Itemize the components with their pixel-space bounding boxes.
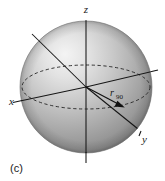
- figure-caption: (c): [10, 162, 23, 174]
- y-axis-label: y: [141, 133, 147, 145]
- z-axis-label: z: [83, 3, 89, 15]
- figure-container: z x y r 90 (c): [0, 0, 165, 181]
- r90-vector-label: r: [110, 87, 114, 98]
- sphere-coordinate-figure: z x y r 90 (c): [0, 0, 165, 181]
- x-axis-label: x: [8, 95, 14, 107]
- r90-vector-subscript: 90: [116, 93, 124, 101]
